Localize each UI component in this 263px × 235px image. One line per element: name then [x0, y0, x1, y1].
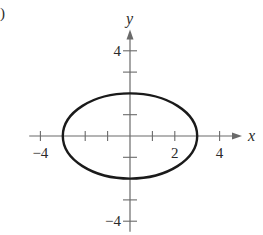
- x-axis-label: x: [247, 127, 255, 144]
- y-tick-label: −4: [105, 213, 121, 229]
- ellipse-chart: −4244−4 ) x y: [0, 0, 263, 235]
- y-axis-label: y: [124, 10, 134, 28]
- x-tick-label: 2: [171, 145, 179, 161]
- x-axis-arrow-icon: [232, 133, 242, 140]
- panel-label: ): [0, 5, 5, 22]
- y-axis-arrow-icon: [127, 30, 134, 40]
- x-tick-label: −4: [32, 145, 48, 161]
- axes: [29, 30, 242, 232]
- y-tick-label: 4: [114, 43, 122, 59]
- x-tick-label: 4: [216, 145, 224, 161]
